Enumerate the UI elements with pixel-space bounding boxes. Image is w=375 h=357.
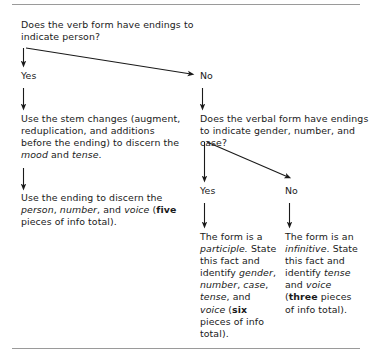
bottom-divider-rule [12,348,360,349]
edge-label-no-1: No [200,70,240,82]
edge-label-yes-2: Yes [200,185,240,197]
flowchart-figure: Does the verb form have endings to indic… [0,0,375,357]
node-body-3: The form is a participle. State this fac… [200,231,278,340]
node-body-4: The form is an infinitive. State this fa… [285,231,363,316]
node-body-2: Use the ending to discern the person, nu… [21,192,186,228]
node-question-1: Does the verb form have endings to indic… [21,19,201,43]
node-body-1: Use the stem changes (augment, reduplica… [21,113,186,161]
edge-label-yes-1: Yes [21,70,61,82]
node-question-2: Does the verbal form have endings to ind… [200,113,372,149]
edge-label-no-2: No [285,185,325,197]
top-divider-rule [12,4,360,5]
